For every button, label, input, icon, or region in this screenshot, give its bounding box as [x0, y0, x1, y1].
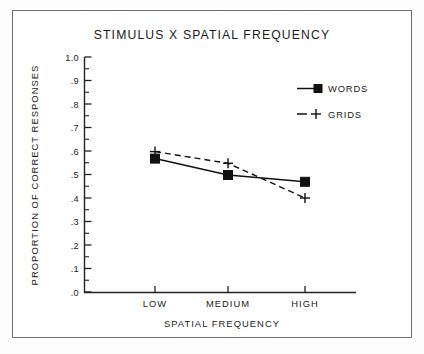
figure-root: STIMULUS X SPATIAL FREQUENCY PROPORTION …	[0, 0, 424, 354]
legend-words-square-icon	[314, 85, 322, 93]
x-tick-label-medium: MEDIUM	[206, 298, 250, 309]
y-tick-label: .7	[71, 123, 79, 133]
x-tick-label-low: LOW	[143, 298, 167, 309]
y-axis-title: PROPORTION OF CORRECT RESPONSES	[29, 65, 40, 286]
chart-title: STIMULUS X SPATIAL FREQUENCY	[94, 28, 331, 42]
y-tick-label: .1	[71, 264, 79, 274]
legend-entry-words[interactable]: WORDS	[297, 83, 368, 94]
y-tick-label: .3	[71, 217, 79, 227]
x-axis-ticks	[155, 286, 305, 293]
y-tick-label: .6	[71, 147, 79, 157]
x-tick-label-high: HIGH	[291, 298, 318, 309]
series-grids-marker-high	[300, 193, 310, 203]
chart-canvas: STIMULUS X SPATIAL FREQUENCY PROPORTION …	[0, 0, 424, 354]
y-axis-tick-labels: 1.0 .9 .8 .7 .6 .5 .4 .3 .2 .1 .0	[65, 53, 79, 298]
y-tick-label: .0	[71, 288, 79, 298]
x-axis-title: SPATIAL FREQUENCY	[164, 318, 280, 329]
x-axis-tick-labels: LOW MEDIUM HIGH	[143, 298, 319, 309]
legend-entry-grids[interactable]: GRIDS	[297, 109, 362, 120]
legend-grids-plus-icon	[311, 109, 321, 119]
chart-legend: WORDS GRIDS	[297, 83, 368, 120]
y-tick-label: .5	[71, 170, 79, 180]
legend-grids-label: GRIDS	[328, 109, 362, 120]
series-words	[151, 154, 310, 186]
series-words-marker-high	[301, 177, 310, 186]
y-tick-label: 1.0	[65, 53, 79, 63]
y-tick-label: .8	[71, 100, 79, 110]
series-words-marker-low	[151, 154, 160, 163]
y-tick-label: .9	[71, 76, 79, 86]
legend-words-label: WORDS	[328, 83, 368, 94]
series-words-marker-medium	[224, 171, 233, 180]
series-grids-marker-medium	[223, 158, 233, 168]
y-tick-label: .4	[71, 194, 79, 204]
y-tick-label: .2	[71, 241, 79, 251]
